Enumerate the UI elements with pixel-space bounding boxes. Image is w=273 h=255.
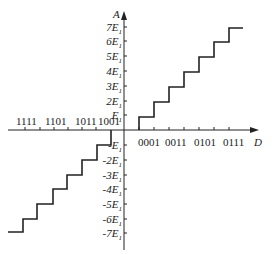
y-axis-arrow-icon [121,11,127,20]
x-axis-label: D [253,136,262,148]
x-axis-arrow-icon [250,127,259,133]
svg-text:2E1: 2E1 [106,95,122,110]
x-tick-label: 1111 [16,115,37,127]
svg-text:-E1: -E1 [108,139,122,154]
staircase-transfer-diagram: A D 0001 0011 0101 0111 1001 1011 1101 1… [0,0,273,255]
diagram: A D 0001 0011 0101 0111 1001 1011 1101 1… [0,0,273,255]
svg-text:-6E1: -6E1 [103,213,122,228]
y-axis-label: A [112,8,120,20]
y-tick-labels-positive: 7E1 6E1 5E1 4E1 3E1 2E1 E1 [105,21,122,124]
svg-text:-5E1: -5E1 [103,198,122,213]
svg-text:-7E1: -7E1 [103,227,122,242]
svg-text:-4E1: -4E1 [103,183,122,198]
svg-text:7E1: 7E1 [106,21,122,36]
x-tick-label: 0101 [194,136,216,148]
x-tick-label: 1101 [45,115,67,127]
x-tick-label: 0011 [165,136,187,148]
positive-staircase [139,28,243,130]
negative-staircase-steps [8,145,107,232]
y-tick-labels-negative: -E1 -2E1 -3E1 -4E1 -5E1 -6E1 -7E1 [103,139,122,242]
svg-text:-2E1: -2E1 [103,154,122,169]
svg-text:3E1: 3E1 [105,80,122,95]
svg-text:4E1: 4E1 [106,65,122,80]
x-tick-label: 0001 [138,136,160,148]
svg-text:5E1: 5E1 [106,50,122,65]
x-tick-label: 1011 [75,115,97,127]
svg-text:-3E1: -3E1 [103,169,122,184]
svg-text:6E1: 6E1 [106,35,122,50]
x-tick-label: 0111 [223,136,244,148]
